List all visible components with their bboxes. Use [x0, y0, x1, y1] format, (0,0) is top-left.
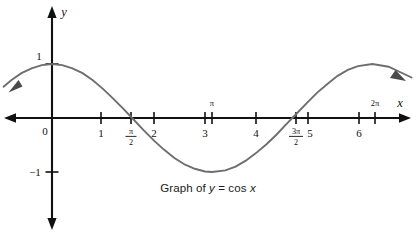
x-tick-group-1: 1	[98, 112, 104, 139]
x-axis-right-arrowhead	[399, 113, 411, 122]
x-tick-group-6: 6	[356, 112, 362, 139]
x-tick-group-2: 2	[151, 112, 157, 139]
caption-prefix: Graph of	[160, 182, 209, 194]
y-tick-label-minus1: −1	[29, 166, 41, 178]
y-tick-group-1: 1	[36, 50, 58, 64]
y-axis-label: y	[59, 5, 67, 19]
x-axis-label: x	[396, 96, 403, 110]
x-tick-label-pi-over-2-denominator: 2	[129, 138, 133, 147]
x-tick-group-5: 5	[307, 112, 313, 139]
x-tick-label-2pi: 2π	[371, 98, 380, 108]
y-axis-up-arrowhead	[47, 6, 56, 18]
plot-svg: y x 0 1 −1 1 2 3 4	[0, 0, 416, 237]
x-tick-label-3pi-over-2-numerator: 3π	[292, 127, 301, 136]
x-tick-label-5: 5	[307, 127, 313, 139]
x-tick-label-pi: π	[210, 98, 215, 108]
x-tick-label-pi-over-2-numerator: π	[129, 127, 134, 136]
y-axis-down-arrowhead	[47, 218, 56, 230]
x-tick-group-3: 3	[202, 112, 208, 139]
caption-x-var: x	[250, 182, 256, 194]
x-tick-label-2: 2	[151, 127, 157, 139]
cosine-graph-figure: y x 0 1 −1 1 2 3 4	[0, 0, 416, 237]
x-tick-group-pi: π	[210, 98, 215, 124]
figure-caption: Graph of y = cos x	[0, 182, 416, 194]
x-tick-group-2pi: 2π	[371, 98, 380, 124]
x-tick-label-1: 1	[98, 127, 104, 139]
x-tick-label-6: 6	[356, 127, 362, 139]
y-tick-label-1: 1	[36, 50, 42, 62]
x-tick-label-3: 3	[202, 127, 208, 139]
x-axis	[4, 113, 411, 122]
caption-equals: = cos	[215, 182, 250, 194]
x-axis-left-arrowhead	[4, 113, 16, 122]
x-tick-label-3pi-over-2-denominator: 2	[294, 138, 298, 147]
x-tick-group-4: 4	[253, 112, 259, 139]
x-tick-label-4: 4	[253, 127, 259, 139]
y-tick-group-minus1: −1	[29, 166, 58, 178]
origin-label: 0	[42, 125, 48, 137]
